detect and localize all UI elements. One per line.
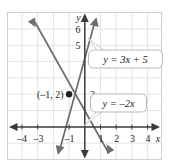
graph-figure: –4 –3 –1 1 2 3 4 x 6 5 2 y (–1, 2) y = 3… [0,0,169,168]
y-axis-name: y [75,12,81,23]
coordinate-plane-svg: –4 –3 –1 1 2 3 4 x 6 5 2 y (–1, 2) y = 3… [0,0,169,168]
x-axis-name: x [155,133,161,144]
y-tick-label-6: 6 [76,24,81,35]
x-tick-label--4: –4 [16,133,27,144]
x-tick-label-2: 2 [114,133,119,144]
y-tick-label-5: 5 [76,40,81,51]
intersection-point-marker [66,91,72,97]
x-tick-label--3: –3 [33,133,44,144]
callout-line2-text: y = –2x [101,98,134,109]
x-tick-label-1: 1 [99,133,104,144]
x-tick-label-3: 3 [130,133,135,144]
intersection-point-label: (–1, 2) [37,89,64,101]
x-tick-label-4: 4 [146,133,151,144]
callout-line1-text: y = 3x + 5 [102,54,148,65]
x-tick-label--1: –1 [64,133,75,144]
